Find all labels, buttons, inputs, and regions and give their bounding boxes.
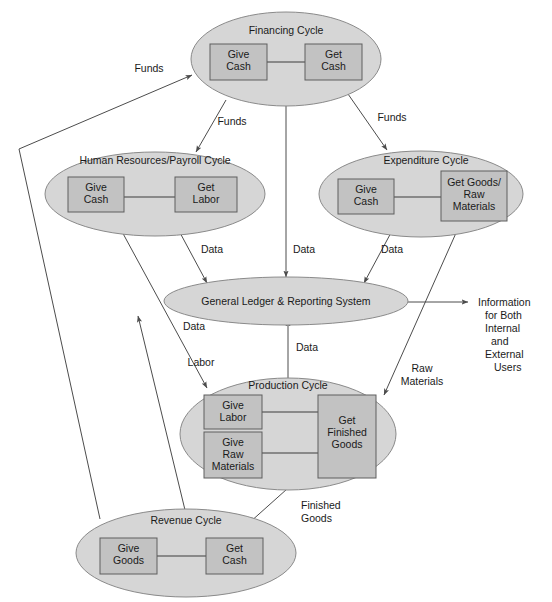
production-give-labor-line2: Labor <box>220 411 247 423</box>
flow-label-raw-materials-expenditure-to-production: Raw Materials <box>401 362 444 387</box>
flow-label-data-production-to-gl: Data <box>296 341 318 353</box>
production-give-raw-line2: Raw <box>222 448 243 460</box>
expenditure-get-goods-line2: Raw <box>463 188 484 200</box>
cycle-financing[interactable]: Financing Cycle Give Cash Get Cash <box>191 12 381 106</box>
flow-label-data-expenditure-to-gl: Data <box>381 243 403 255</box>
cycle-hr-payroll[interactable]: Human Resources/Payroll Cycle Give Cash … <box>45 152 265 236</box>
output-label-line6: Users <box>494 361 521 373</box>
business-cycle-diagram: Financing Cycle Give Cash Get Cash Human… <box>0 0 552 602</box>
finished-goods-label-line1: Finished <box>301 499 341 511</box>
revenue-give-goods-line2: Goods <box>113 554 144 566</box>
financing-get-cash-line1: Get <box>325 48 342 60</box>
raw-materials-label-line2: Materials <box>401 375 444 387</box>
hr-give-cash-line2: Cash <box>84 193 109 205</box>
production-get-finished-line2: Finished <box>327 426 367 438</box>
cycle-revenue[interactable]: Revenue Cycle Give Goods Get Cash <box>76 509 296 597</box>
production-get-finished-line1: Get <box>339 414 356 426</box>
output-label-line1: Information <box>478 296 531 308</box>
expenditure-give-cash-line2: Cash <box>354 195 379 207</box>
hr-get-labor-line1: Get <box>198 181 215 193</box>
flow-label-data-financing-to-gl: Data <box>293 243 315 255</box>
output-label-line4: and <box>491 335 509 347</box>
production-give-labor-line1: Give <box>222 399 244 411</box>
flow-label-funds-financing-to-hr: Funds <box>217 115 246 127</box>
cycle-general-ledger[interactable]: General Ledger & Reporting System <box>164 277 408 325</box>
general-ledger-title: General Ledger & Reporting System <box>201 295 371 307</box>
edge-data-revenue-to-gl <box>138 316 185 510</box>
expenditure-give-cash-line1: Give <box>355 183 377 195</box>
information-output-label: Information for Both Internal and Extern… <box>478 296 531 373</box>
financing-give-cash-line1: Give <box>228 48 250 60</box>
production-cycle-title: Production Cycle <box>248 379 328 391</box>
flow-label-funds-financing-to-expenditure: Funds <box>377 111 406 123</box>
production-give-raw-line3: Materials <box>212 460 255 472</box>
expenditure-get-goods-line1: Get Goods/ <box>447 176 501 188</box>
hr-payroll-cycle-title: Human Resources/Payroll Cycle <box>79 154 230 166</box>
financing-cycle-title: Financing Cycle <box>249 24 324 36</box>
flow-label-labor-hr-to-production: Labor <box>188 356 215 368</box>
expenditure-cycle-title: Expenditure Cycle <box>383 154 468 166</box>
output-label-line5: External <box>485 348 524 360</box>
revenue-get-cash-line2: Cash <box>222 554 247 566</box>
production-give-raw-line1: Give <box>222 436 244 448</box>
expenditure-get-goods-line3: Materials <box>453 200 496 212</box>
financing-get-cash-line2: Cash <box>321 60 346 72</box>
revenue-give-goods-line1: Give <box>118 542 140 554</box>
hr-get-labor-line2: Labor <box>193 193 220 205</box>
edge-data-hr-to-gl <box>178 229 207 283</box>
flow-label-data-hr-to-gl: Data <box>201 243 223 255</box>
cycle-production[interactable]: Production Cycle Give Labor Give Raw Mat… <box>180 378 396 490</box>
edge-finished-goods-production-to-revenue <box>249 489 287 523</box>
financing-give-cash-line2: Cash <box>226 60 251 72</box>
revenue-cycle-title: Revenue Cycle <box>150 514 221 526</box>
output-label-line2: for Both <box>485 309 522 321</box>
flow-label-funds-revenue-to-financing: Funds <box>134 62 163 74</box>
edge-data-expenditure-to-gl <box>364 229 393 283</box>
cycle-expenditure[interactable]: Expenditure Cycle Give Cash Get Goods/ R… <box>319 151 523 237</box>
flow-label-data-revenue-to-gl: Data <box>183 320 205 332</box>
production-get-finished-line3: Goods <box>332 438 363 450</box>
diagram-canvas: Financing Cycle Give Cash Get Cash Human… <box>0 0 552 602</box>
raw-materials-label-line1: Raw <box>411 362 432 374</box>
hr-give-cash-line1: Give <box>85 181 107 193</box>
output-label-line3: Internal <box>485 322 520 334</box>
finished-goods-label-line2: Goods <box>301 512 332 524</box>
revenue-get-cash-line1: Get <box>226 542 243 554</box>
flow-label-finished-goods-production-to-revenue: Finished Goods <box>301 499 341 524</box>
